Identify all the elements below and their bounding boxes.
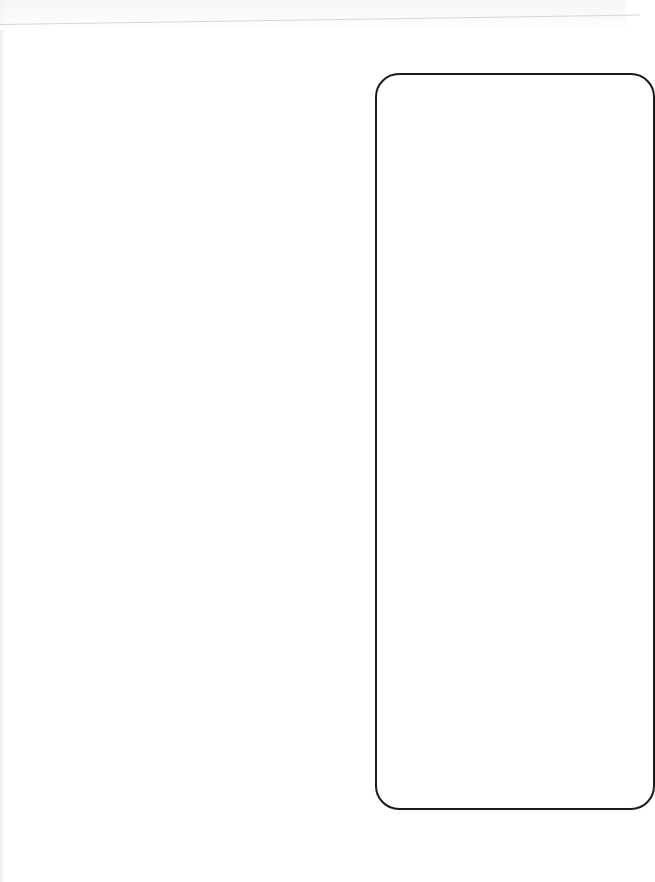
page-edge-shadow — [0, 0, 6, 882]
empty-rounded-frame — [375, 73, 655, 810]
bleed-through-header — [0, 0, 626, 30]
